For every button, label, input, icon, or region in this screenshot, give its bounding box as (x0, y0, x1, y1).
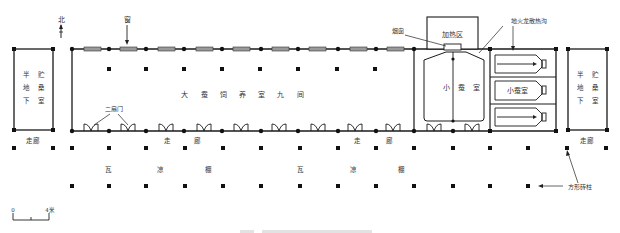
right-storage-building: 半 地 下 贮 桑 室 走廊 (566, 47, 609, 145)
right-corridor-label: 走廊 (580, 136, 594, 145)
corridor-label-2b: 廊 (386, 136, 393, 145)
shed-label-2b: 凉 (350, 165, 357, 174)
svg-text:地: 地 (23, 83, 30, 92)
square-brick-pillar-callout: 方形砖柱 (538, 182, 592, 191)
svg-text:室: 室 (38, 96, 45, 105)
small-silkworm-room-box-label: 小蚕室 (507, 86, 528, 95)
svg-text:下: 下 (577, 97, 584, 105)
pillar-row-2 (70, 184, 530, 188)
double-door-callout: 二扇门 (94, 105, 128, 125)
shed-label-2c: 棚 (398, 165, 405, 174)
left-storage-building: 半 地 下 贮 桑 室 走廊 (12, 47, 55, 145)
interior-posts (107, 67, 377, 71)
cropped-caption (240, 230, 372, 233)
heating-area-label: 加热区 (442, 30, 463, 39)
shed-label-1b: 凉 (157, 165, 164, 174)
pillar-row-1 (12, 146, 608, 150)
small-silkworm-room-large: 小 蚕 室 (424, 52, 484, 123)
windows-row (84, 47, 404, 51)
chimney-label: 烟囱 (392, 27, 404, 35)
svg-text:地: 地 (577, 83, 584, 92)
corridor-label-2a: 走 (354, 137, 361, 145)
svg-text:贮: 贮 (38, 70, 45, 79)
svg-text:下: 下 (23, 97, 30, 105)
north-label: 北 (58, 16, 65, 24)
svg-text:小 蚕 室: 小 蚕 室 (443, 83, 483, 92)
silkworm-house-floor-plan: 北 窗 半 地 下 贮 桑 室 走廊 (0, 0, 620, 233)
svg-text:桑: 桑 (38, 83, 45, 92)
svg-text:桑: 桑 (592, 83, 599, 92)
svg-text:贮: 贮 (592, 70, 599, 79)
shed-label-2a: 瓦 (297, 166, 304, 174)
shed-label-1c: 棚 (205, 165, 212, 174)
svg-text:半: 半 (23, 70, 30, 79)
svg-text:方形砖柱: 方形砖柱 (568, 183, 592, 191)
scale-bar: 0 4米 (11, 206, 55, 220)
svg-text:二扇门: 二扇门 (105, 105, 123, 113)
svg-text:半: 半 (577, 70, 584, 79)
shed-label-1a: 瓦 (105, 166, 112, 174)
window-callout: 窗 (124, 15, 131, 45)
scale-start: 0 (11, 207, 15, 213)
doors-row (84, 124, 479, 131)
left-corridor-label: 走廊 (26, 136, 40, 145)
svg-text:室: 室 (592, 96, 599, 105)
scale-end: 4米 (45, 206, 55, 214)
north-arrow: 北 (58, 16, 65, 38)
corridor-label-1a: 走 (164, 137, 171, 145)
pillar-leader-line (568, 153, 578, 183)
main-building (72, 49, 556, 131)
window-label: 窗 (124, 15, 131, 24)
svg-text:地火龙散热沟: 地火龙散热沟 (511, 17, 547, 25)
main-hall-label: 大 蚕 饲 养 室 九 间 (181, 90, 308, 99)
corridor-label-1b: 廊 (194, 136, 201, 145)
